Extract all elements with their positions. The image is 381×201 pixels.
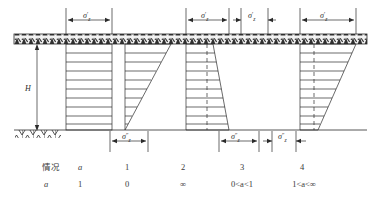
arrow-head <box>221 139 226 144</box>
case-4-hatch <box>300 53 352 124</box>
case-3-diagram <box>186 44 229 130</box>
table-row1-first-value: a <box>78 162 82 172</box>
top-dimension-labels: σ′z σ′z σ′z σ′z <box>83 11 328 22</box>
table-row1-label: 情况 <box>42 162 60 172</box>
arrow-head <box>296 139 301 144</box>
case-3-outline <box>186 44 229 130</box>
arrow-head <box>302 18 307 23</box>
table-case-number-1: 1 <box>125 162 129 172</box>
table-case-value-1: 0 <box>125 179 129 189</box>
table-case-number-3: 3 <box>240 162 244 172</box>
arrow-head <box>222 18 227 23</box>
table-case-value-2: ∞ <box>180 179 186 189</box>
depth-label-H: H <box>24 84 32 93</box>
arrow-head <box>236 18 241 23</box>
arrow-head <box>112 139 117 144</box>
arrow-head <box>267 139 272 144</box>
case-table: 情况 a 1 2 3 4 a 1 0 ∞ 0<a<1 1<a<∞ <box>42 162 316 189</box>
table-row2-first-value: 1 <box>78 179 82 189</box>
case-2-hatch <box>125 53 166 124</box>
case-4-outline <box>300 44 356 130</box>
case-1-diagram <box>66 44 112 130</box>
table-row2-label: a <box>44 179 48 189</box>
bottom-dimension-group <box>110 131 306 152</box>
table-case-value-3: 0<a<1 <box>231 179 253 189</box>
top-stress-label-3: σ′z <box>248 11 256 22</box>
arrow-head <box>349 18 354 23</box>
arrow-head <box>188 18 193 23</box>
arrow-head <box>268 18 273 23</box>
bottom-stress-label-3: σ″z <box>278 132 287 143</box>
arrow-head <box>141 139 146 144</box>
arrow-head <box>68 18 73 23</box>
soil-fill-layer <box>14 34 367 44</box>
case-1-hatch <box>66 53 112 124</box>
table-case-number-2: 2 <box>181 162 185 172</box>
table-case-value-4: 1<a<∞ <box>292 179 316 189</box>
case-1-outline <box>66 44 112 130</box>
table-case-number-4: 4 <box>300 162 305 172</box>
case-2-diagram <box>125 44 171 130</box>
depth-dimension-H <box>35 44 39 131</box>
fixed-support-hatching <box>15 130 61 138</box>
case-2-outline <box>125 44 171 130</box>
stress-distribution-figure: σ′z σ′z σ′z σ′z H <box>0 0 381 201</box>
figure-svg: σ′z σ′z σ′z σ′z H <box>0 0 381 201</box>
top-dimension-group <box>66 8 356 34</box>
arrow-head <box>105 18 110 23</box>
bottom-dimension-labels: σ″z σ″z σ″z <box>122 132 287 143</box>
arrow-head <box>35 44 39 50</box>
case-4-diagram <box>300 44 356 130</box>
arrow-head <box>252 139 257 144</box>
